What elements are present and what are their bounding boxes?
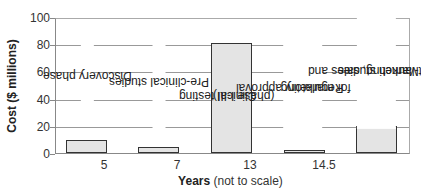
y-tick: 40 (37, 93, 50, 107)
y-tickmark (50, 154, 55, 155)
bar-marketing (356, 126, 397, 153)
y-tick: 20 (37, 120, 50, 134)
label-discovery: Discovery phase (74, 15, 100, 135)
x-tick: 5 (101, 158, 108, 172)
y-tick: 100 (30, 11, 50, 25)
bar-regulatory (284, 150, 325, 153)
label-clinical: Clinical testing(phase I-III) (213, 43, 249, 147)
label-marketing: Marketing, sales andpost-launch studies (358, 17, 394, 123)
plot-area: Discovery phase Pre-clinical studies Cli… (55, 18, 410, 154)
x-axis-label: Years (not to scale) (0, 174, 421, 188)
label-regulatory: Regulatory approvalfor marketing (285, 27, 321, 147)
y-axis-label: Cost ($ millions) (2, 18, 22, 154)
bar-discovery (66, 140, 107, 153)
bar-preclinical (138, 147, 179, 153)
x-tick: 14.5 (312, 158, 335, 172)
y-tick: 0 (43, 147, 50, 161)
y-tick: 80 (37, 38, 50, 52)
drug-development-cost-chart: Cost ($ millions) 0 20 40 60 80 100 Disc… (0, 0, 421, 192)
x-tick: 13 (243, 158, 256, 172)
x-tick: 7 (174, 158, 181, 172)
label-preclinical: Pre-clinical studies (146, 21, 172, 141)
